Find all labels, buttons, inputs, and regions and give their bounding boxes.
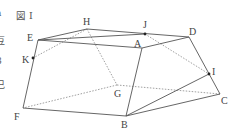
- point-K: [32, 57, 35, 60]
- point-I: [208, 73, 211, 76]
- point-J: [144, 33, 147, 36]
- figure-title: 図 I: [16, 10, 33, 21]
- label-B: B: [121, 119, 128, 129]
- edge-AB: [126, 48, 142, 116]
- label-A: A: [134, 38, 142, 49]
- label-K: K: [22, 54, 30, 65]
- polyhedron-figure: 図 IHJDEAKIGCFB: [0, 0, 236, 129]
- edge-FB: [23, 108, 126, 116]
- edge-EA: [38, 40, 142, 48]
- label-D: D: [189, 26, 196, 37]
- label-C: C: [221, 95, 228, 106]
- edge-BC: [126, 94, 220, 116]
- label-I: I: [212, 66, 215, 77]
- label-E: E: [27, 32, 33, 43]
- edge-HD: [87, 29, 189, 37]
- hidden-edge-GF: [23, 85, 117, 108]
- label-J: J: [143, 19, 147, 30]
- edge-EF: [23, 40, 38, 108]
- edge-BI: [126, 74, 209, 116]
- edge-DC: [189, 37, 220, 94]
- label-H: H: [83, 16, 90, 27]
- label-F: F: [14, 111, 20, 122]
- edge-AD: [142, 37, 189, 48]
- edge-EJ: [38, 34, 145, 40]
- label-G: G: [114, 88, 121, 99]
